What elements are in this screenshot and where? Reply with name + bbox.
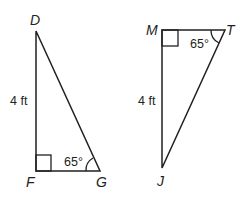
vertex-label-g: G xyxy=(96,174,107,190)
side-label-df: 4 ft xyxy=(10,94,28,108)
vertex-label-j: J xyxy=(156,173,165,189)
right-angle-marker-m xyxy=(162,30,178,46)
triangle-mtj: M T J 4 ft 65° xyxy=(138,22,236,189)
triangle-dfg: D F G 4 ft 65° xyxy=(10,12,107,190)
vertex-label-m: M xyxy=(146,22,158,38)
vertex-label-d: D xyxy=(30,12,40,28)
geometry-figure: D F G 4 ft 65° M T J 4 ft 65° xyxy=(0,0,244,198)
side-label-mj: 4 ft xyxy=(138,94,156,108)
angle-arc-g xyxy=(86,158,93,171)
vertex-label-t: T xyxy=(226,22,236,38)
angle-label-t: 65° xyxy=(190,37,209,51)
triangle-dfg-outline xyxy=(36,31,100,171)
right-angle-marker-f xyxy=(36,155,51,171)
angle-arc-t xyxy=(211,30,219,43)
angle-label-g: 65° xyxy=(64,155,83,169)
vertex-label-f: F xyxy=(26,174,36,190)
